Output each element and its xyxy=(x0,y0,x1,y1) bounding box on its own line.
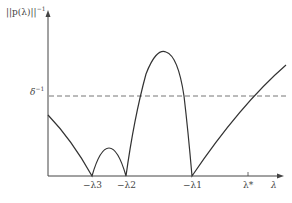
x-axis-arrow-icon xyxy=(277,174,284,179)
x-tick-lambda-star: λ* xyxy=(243,181,253,190)
y-axis-label: ||p(λ)||−1 xyxy=(6,6,45,17)
x-tick-lambda3: −λ3 xyxy=(83,181,102,190)
x-axis-label: λ xyxy=(271,181,277,190)
x-tick-lambda1: −λ1 xyxy=(183,181,202,190)
norm-curve xyxy=(48,51,286,176)
y-axis-label-exp: −1 xyxy=(37,5,46,12)
delta-label-exp: −1 xyxy=(35,85,44,92)
y-axis-arrow-icon xyxy=(46,10,51,17)
chart-canvas xyxy=(0,0,292,203)
delta-label: δ−1 xyxy=(30,86,44,97)
y-axis-label-text: ||p(λ)|| xyxy=(6,7,37,17)
x-tick-lambda2: −λ2 xyxy=(117,181,136,190)
